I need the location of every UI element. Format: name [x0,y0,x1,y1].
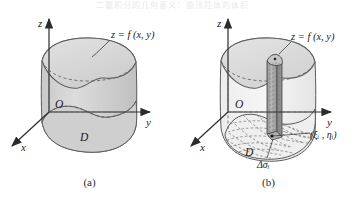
figure-panel-a: z y x O D z = f (x, y) (a) [0,0,179,198]
y-axis-label-a: y [145,116,151,128]
region-label-b: D [244,146,254,158]
x-axis-label-a: x [20,141,26,153]
z-axis-label-a: z [37,17,43,29]
figure-root: 二重积分的几何意义：曲顶柱体的体积 [0,0,358,198]
figure-panel-b: z y x O D z = f (x, y) (ξᵢ , ηᵢ) Δσᵢ (b) [179,0,358,198]
y-axis-label-b: y [326,116,332,128]
sample-point-label-b: (ξᵢ , ηᵢ) [310,129,337,141]
origin-label-a: O [55,98,64,110]
x-axis-label-b: x [199,141,205,153]
z-axis-label-b: z [216,17,222,29]
panel-a-caption: (a) [0,176,179,188]
subregion-label-b: Δσᵢ [256,159,270,170]
origin-label-b: O [235,98,244,110]
surface-label-b: z = f (x, y) [290,31,335,43]
panel-a-drawing: z y x O D z = f (x, y) [0,0,179,198]
prism-column-b [267,58,277,134]
panel-b-drawing: z y x O D z = f (x, y) (ξᵢ , ηᵢ) Δσᵢ [179,0,358,198]
region-label-a: D [79,131,89,143]
surface-label-a: z = f (x, y) [110,29,155,41]
panel-b-caption: (b) [179,176,358,188]
prism-column-right-face-b [277,58,282,137]
prism-top-point-b [274,58,277,61]
